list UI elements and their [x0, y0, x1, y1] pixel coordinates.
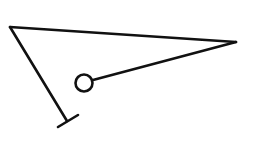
top-edge-line [10, 27, 236, 42]
endpoint-circle-icon [76, 75, 93, 92]
diagram-canvas [0, 0, 253, 145]
end-bar-line [58, 115, 78, 127]
circle-connector-line [93, 42, 236, 80]
left-edge-line [10, 27, 67, 121]
